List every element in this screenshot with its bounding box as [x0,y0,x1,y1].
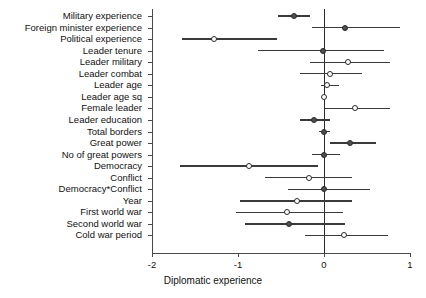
y-axis-tick [148,235,152,236]
y-axis-tick [148,108,152,109]
confidence-interval-bar [330,142,376,143]
confidence-interval-bar [182,38,277,39]
confidence-interval-bar [288,189,371,190]
y-axis-tick [148,155,152,156]
x-axis-tick-label: -1 [234,259,242,270]
y-axis-tick [148,28,152,29]
coefficient-point [321,186,327,192]
coefficient-point [306,175,312,181]
y-axis-tick [148,85,152,86]
y-axis-tick [148,39,152,40]
y-axis-tick [148,224,152,225]
coefficient-point [342,25,348,31]
x-axis-title: Diplomatic experience [0,275,426,286]
x-axis-tick [238,253,239,257]
coefficient-point [311,117,317,123]
x-axis-tick-label: 0 [321,259,326,270]
y-axis-tick [148,132,152,133]
y-axis-tick [148,143,152,144]
coefficient-point [327,71,333,77]
coefficient-point [321,152,327,158]
coefficient-point [345,59,351,65]
coefficient-point [246,163,252,169]
y-axis-tick [148,62,152,63]
coefficient-point [320,48,326,54]
y-axis-tick [148,74,152,75]
confidence-interval-bar [312,27,400,28]
coefficient-point [211,36,217,42]
y-axis-tick [148,51,152,52]
coefficient-point [294,198,300,204]
coefficient-point [286,221,292,227]
coefficient-point [324,82,330,88]
x-axis-tick-label: 1 [407,259,412,270]
y-axis-tick [148,166,152,167]
y-axis-tick [148,97,152,98]
x-axis-tick-label: -2 [148,259,156,270]
confidence-interval-bar [245,223,345,224]
coefficient-point [321,94,327,100]
y-axis-tick [148,189,152,190]
coefficient-point [347,140,353,146]
x-axis-tick [152,253,153,257]
coefficient-point [321,129,327,135]
x-axis-tick [324,253,325,257]
y-axis-tick [148,201,152,202]
coefficient-plot-figure: Military experienceForeign minister expe… [0,0,426,298]
x-axis-line [152,253,410,254]
y-axis-tick [148,120,152,121]
coefficient-point [284,209,290,215]
coefficient-point [341,232,347,238]
coefficient-point [352,105,358,111]
y-axis-tick [148,16,152,17]
y-axis-line [152,9,153,253]
x-axis-tick [410,253,411,257]
plot-panel: -2-101 Diplomatic experience [0,0,426,298]
y-axis-tick [148,212,152,213]
coefficient-point [291,13,297,19]
y-axis-tick [148,178,152,179]
